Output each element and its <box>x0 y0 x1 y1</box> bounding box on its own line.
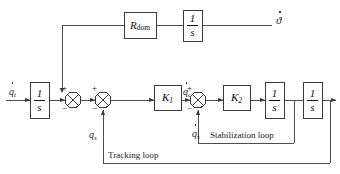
block-diagram-canvas: 1 s Rdom 1 s K1 K2 1 s <box>0 0 340 174</box>
qsdot-subscript: s <box>197 133 200 141</box>
sum2-plus-sign: + <box>92 84 97 93</box>
loop-label-tracking: Tracking loop <box>108 151 158 160</box>
block-rect-int-top <box>183 10 202 41</box>
overdot-icon <box>195 124 197 126</box>
sum3-minus-sign: − <box>187 104 192 113</box>
signal-label-qs-dot: qs <box>192 124 200 141</box>
block-rect-int-rate <box>265 82 284 118</box>
block-rect-int-pos <box>303 82 322 118</box>
sum1-minus-sign: − <box>62 104 67 113</box>
sum1-plus-sign: + <box>62 84 67 93</box>
input-qt-subscript: t <box>14 91 16 99</box>
signal-label-input-qt: qt <box>9 82 16 99</box>
block-rect-k2 <box>223 85 250 110</box>
overdot-icon <box>12 82 14 84</box>
sum3-plus-sign: + <box>187 84 192 93</box>
sum2-minus-sign: − <box>92 104 97 113</box>
block-rect-int-input <box>30 82 49 118</box>
block-rect-k1 <box>154 85 181 110</box>
loop-label-stabilization: Stabilization loop <box>210 131 274 140</box>
block-rect-rdom <box>124 12 156 38</box>
qs-subscript: s <box>94 134 97 142</box>
diagram-wiring-layer <box>0 0 340 174</box>
theta-base: ϑ <box>276 14 281 26</box>
overdot-icon <box>279 11 281 13</box>
signal-label-qs: qs <box>89 125 97 142</box>
signal-label-output-theta: ϑ <box>276 11 281 27</box>
